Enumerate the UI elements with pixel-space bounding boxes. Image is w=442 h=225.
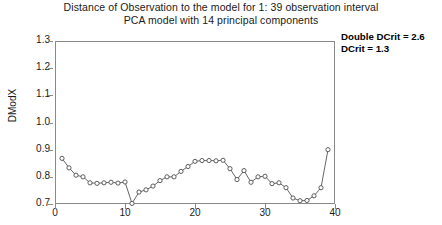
data-point [256, 175, 260, 179]
x-tick-mark [125, 204, 126, 209]
data-point [235, 177, 239, 181]
data-point [179, 169, 183, 173]
data-point [144, 188, 148, 192]
x-tick-mark [195, 204, 196, 209]
data-point [172, 175, 176, 179]
data-point [116, 181, 120, 185]
data-point [123, 180, 127, 184]
data-point [298, 199, 302, 203]
data-point [326, 148, 330, 152]
x-tick-mark [335, 204, 336, 209]
data-point [193, 159, 197, 163]
data-point [102, 181, 106, 185]
data-point [165, 175, 169, 179]
data-point [130, 201, 134, 205]
data-point [81, 175, 85, 179]
data-point [312, 194, 316, 198]
data-point [60, 156, 64, 160]
data-point [270, 182, 274, 186]
data-point [74, 173, 78, 177]
data-point [242, 168, 246, 172]
x-tick-mark [265, 204, 266, 209]
data-point [263, 174, 267, 178]
data-point [249, 180, 253, 184]
data-point [137, 190, 141, 194]
data-series-markers [60, 148, 330, 206]
plot-area [55, 41, 335, 204]
data-point [151, 184, 155, 188]
data-point [319, 186, 323, 190]
data-point [158, 179, 162, 183]
data-point [291, 196, 295, 200]
data-point [214, 159, 218, 163]
x-tick-mark [55, 204, 56, 209]
chart-screenshot: Distance of Observation to the model for… [0, 0, 442, 225]
data-point [277, 181, 281, 185]
data-point [95, 181, 99, 185]
data-series-line [62, 150, 328, 204]
data-point [186, 164, 190, 168]
data-point [228, 167, 232, 171]
data-point [221, 158, 225, 162]
data-point [88, 181, 92, 185]
data-point [305, 198, 309, 202]
data-point [67, 166, 71, 170]
data-point [207, 158, 211, 162]
data-point [284, 186, 288, 190]
data-point [109, 180, 113, 184]
data-point [200, 158, 204, 162]
